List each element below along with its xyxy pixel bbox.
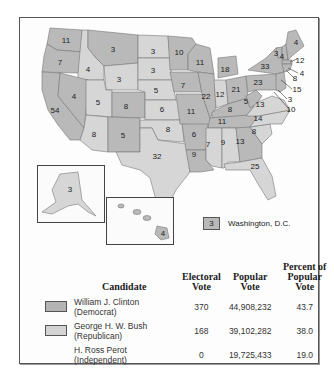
svg-text:4: 4 [161,229,166,238]
svg-text:8: 8 [124,102,129,111]
svg-text:33: 33 [261,62,270,71]
table-row: William J. Clinton(Democrat) 370 44,908,… [40,295,334,319]
svg-text:5: 5 [244,97,249,106]
svg-text:3: 3 [117,75,122,84]
dc-legend: 3 Washington, D.C. [203,217,290,230]
dc-label: Washington, D.C. [228,219,290,228]
svg-text:13: 13 [236,137,245,146]
svg-text:4: 4 [72,92,77,101]
popular-vote: 44,908,232 [225,295,276,319]
svg-text:14: 14 [254,114,263,123]
table-row: George H. W. Bush(Republican) 168 39,102… [40,319,334,343]
percent-vote: 38.0 [275,319,334,343]
svg-text:3: 3 [111,45,116,54]
svg-text:10: 10 [287,105,296,114]
svg-text:12: 12 [216,90,225,99]
svg-text:22: 22 [202,92,211,101]
svg-text:4: 4 [300,69,305,78]
republican-swatch [45,325,67,336]
header-percent: Percent ofPopular Vote [275,262,334,295]
alaska-map: 3 [38,166,104,222]
svg-text:8: 8 [166,125,171,134]
svg-text:3: 3 [151,66,156,75]
svg-text:7: 7 [181,81,186,90]
percent-vote: 19.0 [275,343,334,367]
hawaii-inset: 4 [106,197,174,245]
candidate-name: George H. W. Bush(Republican) [72,319,178,343]
svg-text:5: 5 [96,98,101,107]
svg-text:21: 21 [232,85,241,94]
hawaii-map: 4 [107,198,173,244]
results-table: Candidate ElectoralVote PopularVote Perc… [40,262,334,367]
electoral-vote: 0 [178,343,225,367]
svg-text:10: 10 [175,48,184,57]
candidate-name: William J. Clinton(Democrat) [72,295,178,319]
svg-text:3: 3 [274,49,279,58]
svg-text:11: 11 [218,117,227,126]
table-header-row: Candidate ElectoralVote PopularVote Perc… [40,262,334,295]
svg-text:8: 8 [92,130,97,139]
state-co [112,92,145,118]
svg-text:9: 9 [221,138,226,147]
svg-text:3: 3 [68,185,73,194]
svg-text:5: 5 [121,131,126,140]
svg-text:7: 7 [58,58,63,67]
svg-text:25: 25 [251,162,260,171]
svg-text:18: 18 [221,65,230,74]
svg-text:8: 8 [228,105,233,114]
svg-text:23: 23 [254,78,263,87]
state-nj-md-de [276,72,286,92]
electoral-vote: 370 [178,295,225,319]
percent-vote: 43.7 [275,295,334,319]
svg-text:11: 11 [187,107,196,116]
header-candidate: Candidate [72,262,178,295]
svg-text:32: 32 [153,152,162,161]
svg-text:8: 8 [252,127,257,136]
svg-text:4: 4 [294,38,299,47]
svg-text:6: 6 [160,105,165,114]
svg-text:11: 11 [62,36,71,45]
democrat-swatch [45,301,67,312]
svg-text:9: 9 [192,150,197,159]
svg-text:13: 13 [256,100,265,109]
svg-text:12: 12 [296,56,305,65]
svg-text:4: 4 [86,65,91,74]
state-pa [246,74,280,92]
svg-text:4: 4 [280,52,285,61]
dc-swatch: 3 [203,217,220,230]
popular-vote: 19,725,433 [225,343,276,367]
table-row: H. Ross Perot(Independent) 0 19,725,433 … [40,343,334,367]
svg-text:54: 54 [51,106,60,115]
candidate-name: H. Ross Perot(Independent) [72,343,178,367]
alaska-inset: 3 [37,165,105,223]
header-popular: PopularVote [225,262,276,295]
svg-text:3: 3 [151,47,156,56]
svg-text:3: 3 [288,95,293,104]
state-ia [170,72,202,92]
state-ak [42,172,96,216]
electoral-vote: 168 [178,319,225,343]
svg-text:11: 11 [196,58,205,67]
svg-text:15: 15 [293,85,302,94]
popular-vote: 39,102,282 [225,319,276,343]
svg-text:5: 5 [154,86,159,95]
svg-text:8: 8 [293,74,298,83]
svg-text:6: 6 [192,130,197,139]
header-electoral: ElectoralVote [178,262,225,295]
svg-text:7: 7 [206,140,211,149]
